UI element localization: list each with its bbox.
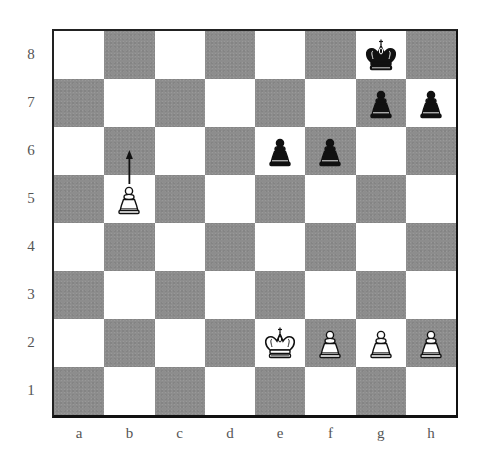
rank-label-7: 7	[21, 95, 41, 110]
square-g1[interactable]	[356, 367, 406, 415]
square-f8[interactable]	[305, 31, 355, 79]
square-f3[interactable]	[305, 271, 355, 319]
square-e1[interactable]	[255, 367, 305, 415]
square-e8[interactable]	[255, 31, 305, 79]
white-king-icon[interactable]	[262, 326, 298, 362]
file-label-g: g	[371, 426, 391, 441]
file-label-d: d	[220, 426, 240, 441]
square-e6[interactable]	[255, 127, 305, 175]
square-b8[interactable]	[104, 31, 154, 79]
square-b4[interactable]	[104, 223, 154, 271]
square-c8[interactable]	[155, 31, 205, 79]
white-pawn-icon[interactable]	[111, 182, 147, 218]
white-pawn-icon[interactable]	[413, 326, 449, 362]
square-b6[interactable]	[104, 127, 154, 175]
file-label-c: c	[170, 426, 190, 441]
rank-label-5: 5	[21, 191, 41, 206]
square-a8[interactable]	[54, 31, 104, 79]
square-f1[interactable]	[305, 367, 355, 415]
square-e2[interactable]	[255, 319, 305, 367]
square-b1[interactable]	[104, 367, 154, 415]
file-label-h: h	[421, 426, 441, 441]
square-a5[interactable]	[54, 175, 104, 223]
black-king-icon[interactable]	[363, 38, 399, 74]
square-b5[interactable]	[104, 175, 154, 223]
square-f4[interactable]	[305, 223, 355, 271]
square-h5[interactable]	[406, 175, 456, 223]
square-b3[interactable]	[104, 271, 154, 319]
square-c4[interactable]	[155, 223, 205, 271]
square-g7[interactable]	[356, 79, 406, 127]
square-a6[interactable]	[54, 127, 104, 175]
square-d6[interactable]	[205, 127, 255, 175]
square-h8[interactable]	[406, 31, 456, 79]
square-c6[interactable]	[155, 127, 205, 175]
square-a4[interactable]	[54, 223, 104, 271]
black-pawn-icon[interactable]	[363, 86, 399, 122]
rank-label-6: 6	[21, 143, 41, 158]
black-pawn-icon[interactable]	[262, 134, 298, 170]
square-b7[interactable]	[104, 79, 154, 127]
square-c3[interactable]	[155, 271, 205, 319]
square-f7[interactable]	[305, 79, 355, 127]
square-a3[interactable]	[54, 271, 104, 319]
white-pawn-icon[interactable]	[363, 326, 399, 362]
square-b2[interactable]	[104, 319, 154, 367]
rank-label-1: 1	[21, 383, 41, 398]
square-c5[interactable]	[155, 175, 205, 223]
square-c2[interactable]	[155, 319, 205, 367]
square-h7[interactable]	[406, 79, 456, 127]
square-h4[interactable]	[406, 223, 456, 271]
rank-label-3: 3	[21, 287, 41, 302]
square-c7[interactable]	[155, 79, 205, 127]
file-label-a: a	[69, 426, 89, 441]
rank-label-2: 2	[21, 335, 41, 350]
square-g4[interactable]	[356, 223, 406, 271]
black-pawn-icon[interactable]	[312, 134, 348, 170]
square-e3[interactable]	[255, 271, 305, 319]
square-d7[interactable]	[205, 79, 255, 127]
square-d4[interactable]	[205, 223, 255, 271]
square-d2[interactable]	[205, 319, 255, 367]
square-e4[interactable]	[255, 223, 305, 271]
square-f5[interactable]	[305, 175, 355, 223]
square-e7[interactable]	[255, 79, 305, 127]
square-g5[interactable]	[356, 175, 406, 223]
square-f2[interactable]	[305, 319, 355, 367]
square-h1[interactable]	[406, 367, 456, 415]
rank-label-8: 8	[21, 47, 41, 62]
square-a1[interactable]	[54, 367, 104, 415]
square-h2[interactable]	[406, 319, 456, 367]
square-a2[interactable]	[54, 319, 104, 367]
square-d8[interactable]	[205, 31, 255, 79]
square-g2[interactable]	[356, 319, 406, 367]
square-g8[interactable]	[356, 31, 406, 79]
black-pawn-icon[interactable]	[413, 86, 449, 122]
file-label-e: e	[270, 426, 290, 441]
file-label-b: b	[119, 426, 139, 441]
rank-label-4: 4	[21, 239, 41, 254]
square-g3[interactable]	[356, 271, 406, 319]
square-h6[interactable]	[406, 127, 456, 175]
square-g6[interactable]	[356, 127, 406, 175]
white-pawn-icon[interactable]	[312, 326, 348, 362]
square-h3[interactable]	[406, 271, 456, 319]
square-a7[interactable]	[54, 79, 104, 127]
square-d1[interactable]	[205, 367, 255, 415]
square-c1[interactable]	[155, 367, 205, 415]
file-label-f: f	[320, 426, 340, 441]
square-f6[interactable]	[305, 127, 355, 175]
square-d3[interactable]	[205, 271, 255, 319]
square-d5[interactable]	[205, 175, 255, 223]
square-e5[interactable]	[255, 175, 305, 223]
chess-board	[52, 29, 458, 418]
